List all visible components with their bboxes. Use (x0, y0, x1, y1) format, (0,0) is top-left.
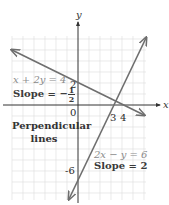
line1-equation: x + 2y = 4 (13, 75, 67, 85)
origin-label: 0 (70, 108, 76, 118)
tick-x-4: 4 (120, 113, 126, 123)
line-2x-minus-y-eq-6 (69, 38, 146, 199)
slope-fraction: 12 (68, 86, 76, 103)
line1-slope-prefix: Slope = − (13, 88, 68, 99)
figure-title: Perpendicular lines (12, 121, 76, 144)
x-axis-label: x (163, 100, 169, 110)
line1-slope: Slope = −12 (13, 86, 75, 103)
tick-y-neg6: -6 (65, 166, 75, 176)
tick-x-3: 3 (110, 113, 116, 123)
title-line-1: Perpendicular (12, 121, 76, 131)
line2-equation: 2x − y = 6 (94, 150, 148, 160)
line2-slope: Slope = 2 (94, 161, 147, 171)
y-axis-label: y (76, 10, 82, 20)
fraction-denominator: 2 (69, 95, 75, 103)
title-line-2: lines (12, 134, 76, 144)
